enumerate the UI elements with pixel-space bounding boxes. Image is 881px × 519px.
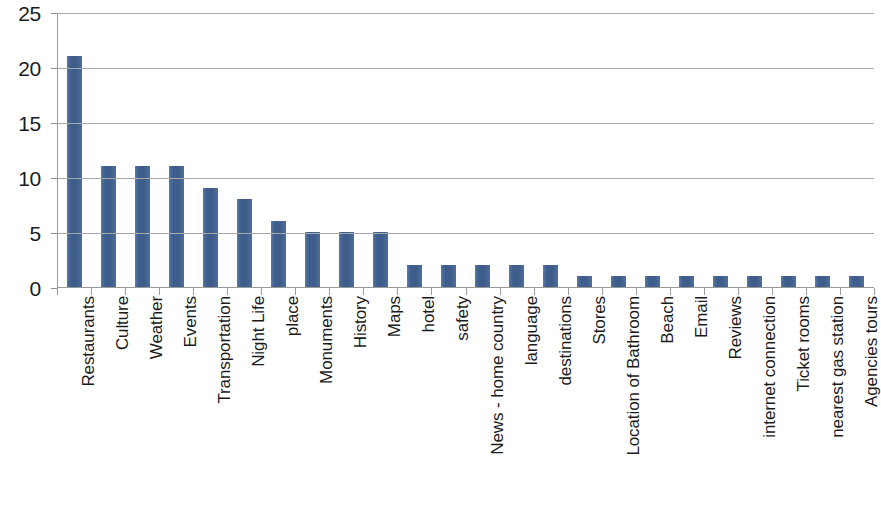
gridline <box>57 178 874 179</box>
x-axis-tick <box>636 288 637 295</box>
x-axis-tick <box>91 288 92 295</box>
x-axis-tick <box>670 288 671 295</box>
y-axis-tick <box>51 13 57 14</box>
bar <box>271 221 286 287</box>
x-axis-tick <box>874 288 875 295</box>
x-axis-tick <box>431 288 432 295</box>
x-axis-tick <box>704 288 705 295</box>
x-axis-category-label: Agencies tours <box>863 296 880 407</box>
x-axis-category-label: Maps <box>386 296 403 337</box>
bar <box>203 188 218 287</box>
bar <box>849 276 864 287</box>
y-axis-tick-label: 5 <box>0 223 41 244</box>
y-axis-tick-label: 15 <box>0 113 41 134</box>
x-axis-tick <box>193 288 194 295</box>
x-axis-category-label: language <box>523 296 540 365</box>
x-axis-category-label: Night Life <box>250 296 267 367</box>
x-axis-category-label: safety <box>454 296 471 341</box>
x-axis-tick <box>840 288 841 295</box>
bar <box>543 265 558 287</box>
gridline <box>57 233 874 234</box>
bar <box>509 265 524 287</box>
x-axis-category-label: Location of Bathroom <box>625 296 642 456</box>
y-axis-tick <box>51 68 57 69</box>
x-axis-tick <box>568 288 569 295</box>
y-axis-tick <box>51 233 57 234</box>
bar <box>645 276 660 287</box>
bar <box>407 265 422 287</box>
bar <box>373 232 388 287</box>
x-axis-tick <box>57 288 58 295</box>
x-axis-tick <box>738 288 739 295</box>
x-axis-tick <box>125 288 126 295</box>
bar <box>475 265 490 287</box>
x-axis-category-label: Stores <box>591 296 608 345</box>
bar <box>747 276 762 287</box>
y-axis-tick-label: 10 <box>0 168 41 189</box>
y-axis-tick <box>51 123 57 124</box>
x-axis-tick <box>295 288 296 295</box>
x-axis-tick <box>772 288 773 295</box>
bar <box>577 276 592 287</box>
bar <box>815 276 830 287</box>
x-axis-tick <box>534 288 535 295</box>
x-axis-category-label: Transportation <box>216 296 233 404</box>
x-axis-tick <box>806 288 807 295</box>
bar <box>679 276 694 287</box>
x-axis-tick <box>397 288 398 295</box>
x-axis-category-label: hotel <box>420 296 437 332</box>
bar <box>713 276 728 287</box>
bar <box>237 199 252 287</box>
x-axis-category-label: internet connection <box>761 296 778 438</box>
bar <box>441 265 456 287</box>
bar <box>101 166 116 287</box>
gridline <box>57 123 874 124</box>
y-axis-labels: 0510152025 <box>0 0 52 300</box>
y-axis-tick-label: 0 <box>0 278 41 299</box>
x-axis-category-label: Events <box>182 296 199 347</box>
plot-area <box>57 13 874 288</box>
x-axis-tick <box>261 288 262 295</box>
gridline <box>57 68 874 69</box>
x-axis-category-label: Email <box>693 296 710 338</box>
x-axis-tick <box>363 288 364 295</box>
x-axis-tick <box>466 288 467 295</box>
x-axis-category-label: Weather <box>148 296 165 359</box>
x-axis-category-label: Culture <box>114 296 131 350</box>
bar <box>135 166 150 287</box>
x-axis-tick <box>329 288 330 295</box>
y-axis-tick-label: 25 <box>0 3 41 24</box>
x-axis-category-label: Monuments <box>318 296 335 384</box>
bar <box>781 276 796 287</box>
x-axis-tick <box>227 288 228 295</box>
x-axis-category-label: place <box>284 296 301 336</box>
x-axis-tick <box>602 288 603 295</box>
gridline <box>57 13 874 14</box>
x-axis-tick <box>500 288 501 295</box>
bar-series <box>57 13 874 287</box>
x-axis-category-label: News - home country <box>489 296 506 455</box>
x-axis-tick <box>159 288 160 295</box>
x-axis-category-label: nearest gas station <box>829 296 846 438</box>
bar <box>67 56 82 287</box>
y-axis-tick <box>51 178 57 179</box>
x-axis-category-label: Beach <box>659 296 676 344</box>
bar <box>339 232 354 287</box>
x-axis-category-label: History <box>352 296 369 348</box>
x-axis-category-label: Restaurants <box>80 296 97 387</box>
x-axis-category-label: Reviews <box>727 296 744 360</box>
x-axis-labels: RestaurantsCultureWeatherEventsTransport… <box>57 296 874 518</box>
x-axis-category-label: Ticket rooms <box>795 296 812 391</box>
y-axis-tick-label: 20 <box>0 58 41 79</box>
bar <box>611 276 626 287</box>
bar <box>169 166 184 287</box>
bar <box>305 232 320 287</box>
x-axis-category-label: destinations <box>557 296 574 386</box>
